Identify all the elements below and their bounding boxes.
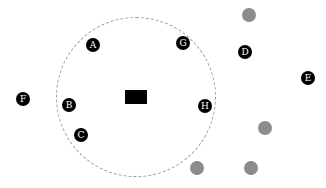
marker-e: E xyxy=(301,71,315,85)
gray-dot xyxy=(258,121,272,135)
marker-c: C xyxy=(74,128,88,142)
marker-label: E xyxy=(305,74,312,83)
marker-b: B xyxy=(62,98,76,112)
marker-label: G xyxy=(179,39,186,48)
center-rectangle xyxy=(125,90,147,104)
marker-d: D xyxy=(238,45,252,59)
marker-label: C xyxy=(78,131,85,140)
gray-dot xyxy=(244,161,258,175)
marker-label: F xyxy=(20,95,26,104)
diagram-canvas: A B C D E F G H xyxy=(0,0,326,188)
marker-g: G xyxy=(176,36,190,50)
marker-label: H xyxy=(201,102,209,111)
marker-h: H xyxy=(198,99,212,113)
gray-dot xyxy=(242,8,256,22)
marker-label: B xyxy=(66,101,73,110)
marker-label: D xyxy=(241,48,248,57)
gray-dot xyxy=(190,161,204,175)
marker-f: F xyxy=(16,92,30,106)
marker-label: A xyxy=(90,41,97,50)
marker-a: A xyxy=(86,38,100,52)
